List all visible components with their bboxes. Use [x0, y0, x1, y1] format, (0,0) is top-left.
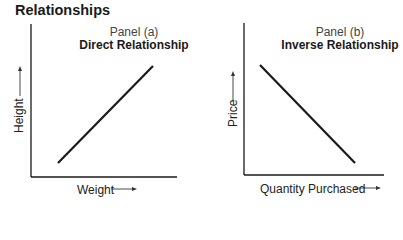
panel-a-direct-line: [58, 66, 153, 163]
panel-a-x-arrow-icon: [111, 187, 137, 191]
panel-b-subtitle: Inverse Relationship: [265, 38, 403, 52]
panel-b-y-arrow-icon: [231, 71, 235, 100]
panel-a-y-arrow-icon: [18, 66, 22, 96]
panel-b-inverse-line: [260, 65, 355, 163]
panel-b-label: Panel (b): [295, 25, 385, 39]
panel-b-x-label: Quantity Purchased: [260, 182, 365, 196]
panel-a-y-label: Height: [12, 98, 26, 133]
panel-a-label: Panel (a): [88, 25, 180, 39]
panel-b-y-label: Price: [226, 100, 240, 127]
panel-a-x-label: Weight: [77, 183, 114, 197]
panel-a-subtitle: Direct Relationship: [55, 38, 213, 52]
